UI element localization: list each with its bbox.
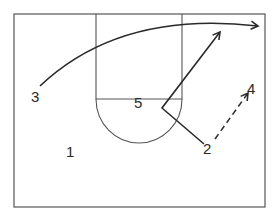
- play-diagram: 1 2 3 4 5: [0, 0, 279, 220]
- player-3-label: 3: [31, 88, 39, 105]
- player-3-cut-arrow: [40, 23, 258, 86]
- pass-2-to-4-arrow: [215, 93, 248, 139]
- player-4-label: 4: [247, 80, 255, 97]
- player-2-cut-arrow: [162, 32, 220, 144]
- player-5-label: 5: [134, 94, 142, 111]
- player-2-label: 2: [203, 140, 211, 157]
- player-1-label: 1: [66, 143, 74, 160]
